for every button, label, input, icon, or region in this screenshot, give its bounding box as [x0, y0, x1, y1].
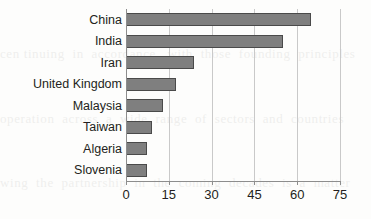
- x-axis-line: [126, 181, 341, 182]
- gridline: [340, 9, 341, 181]
- bar[interactable]: [126, 142, 147, 155]
- bar-row[interactable]: [126, 74, 340, 96]
- x-axis-tick-label: 45: [247, 187, 261, 202]
- bar-row[interactable]: [126, 160, 340, 182]
- bar[interactable]: [126, 164, 147, 177]
- bar[interactable]: [126, 78, 176, 91]
- bar[interactable]: [126, 13, 311, 26]
- x-axis-tick-label: 15: [162, 187, 176, 202]
- bar-row[interactable]: [126, 138, 340, 160]
- x-axis-tick: [254, 181, 255, 185]
- x-axis-tick: [169, 181, 170, 185]
- bar-row[interactable]: [126, 117, 340, 139]
- bar-row[interactable]: [126, 9, 340, 31]
- chart-screenshot: cen tinuing in accordance with those fou…: [0, 0, 371, 219]
- bar[interactable]: [126, 121, 152, 134]
- category-label: India: [0, 34, 122, 48]
- bar-row[interactable]: [126, 31, 340, 53]
- category-label: Iran: [0, 56, 122, 70]
- x-axis-tick-label: 0: [122, 187, 129, 202]
- x-axis-tick-label: 75: [333, 187, 347, 202]
- y-axis-line: [126, 9, 127, 181]
- bar[interactable]: [126, 56, 194, 69]
- bar-row[interactable]: [126, 95, 340, 117]
- x-axis-tick-label: 60: [290, 187, 304, 202]
- category-label: China: [0, 13, 122, 27]
- x-axis-tick: [212, 181, 213, 185]
- bar[interactable]: [126, 99, 163, 112]
- x-axis-tick-label: 30: [204, 187, 218, 202]
- bar[interactable]: [126, 35, 283, 48]
- category-label: Taiwan: [0, 120, 122, 134]
- category-label: United Kingdom: [0, 77, 122, 91]
- x-axis-tick: [340, 181, 341, 185]
- x-axis-tick: [126, 181, 127, 185]
- category-label: Malaysia: [0, 99, 122, 113]
- plot-area: [126, 9, 340, 181]
- x-axis-tick: [297, 181, 298, 185]
- category-axis-labels: ChinaIndiaIranUnited KingdomMalaysiaTaiw…: [0, 9, 122, 181]
- category-label: Slovenia: [0, 163, 122, 177]
- category-label: Algeria: [0, 142, 122, 156]
- bar-row[interactable]: [126, 52, 340, 74]
